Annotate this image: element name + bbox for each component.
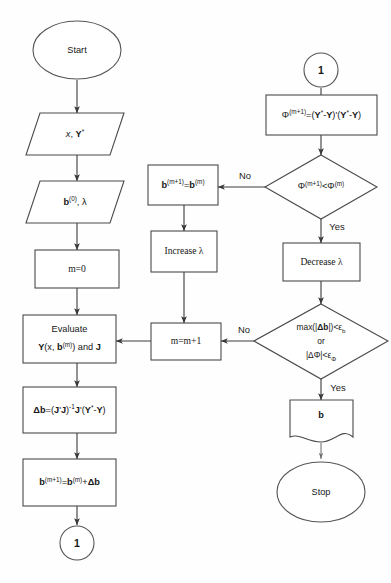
node-delta-b: Δb=(J'J)-1J'(Y*-Y) [23,387,116,433]
edge-label-phi-no: No [239,170,251,181]
node-phi-decision: Φ(m+1)<Φ(m) [265,155,377,219]
node-increase-lambda: Increase λ [151,231,217,272]
node-m-increment: m=m+1 [151,323,221,360]
node-start: Start [33,21,121,79]
node-connector-top-right-label: 1 [318,64,324,76]
edge-label-converge-yes: Yes [330,382,346,393]
flowchart-svg: Start x, Y* b(0), λ m=0 Evaluate Y(x, b(… [0,0,391,583]
node-connector-bottom-left: 1 [60,526,94,560]
node-increase-lambda-label: Increase λ [164,245,203,256]
edge-label-phi-yes: Yes [329,221,345,232]
node-phi-calc: Φ(m+1)=(Y*-Y)'(Y*-Y) [266,95,377,135]
node-b-revert: b(m+1)=b(m) [148,165,218,205]
node-m-increment-label: m=m+1 [171,335,202,346]
node-converge-decision-label-2: or [317,336,325,346]
node-converge-decision: max(|Δb|)<εb or |ΔΦ|<εΦ [254,304,388,379]
node-connector-bottom-left-label: 1 [74,537,80,549]
node-decrease-lambda-label: Decrease λ [300,256,343,267]
node-stop: Stop [277,462,365,522]
node-start-label: Start [67,45,87,55]
node-evaluate: Evaluate Y(x, b(m)) and J [23,315,116,363]
node-connector-top-right: 1 [304,53,338,87]
node-b-update: b(m+1)=b(m)+Δb [23,459,116,506]
edge-label-converge-no: No [238,324,250,335]
flowchart-canvas: Start x, Y* b(0), λ m=0 Evaluate Y(x, b(… [0,0,391,583]
node-decrease-lambda: Decrease λ [283,243,360,281]
node-output-b-label: b [318,410,324,420]
node-stop-label: Stop [312,487,331,497]
node-converge-decision-label-1: max(|Δb|)<εb [297,322,347,333]
node-m-init: m=0 [35,250,119,288]
node-m-init-label: m=0 [68,263,86,274]
node-input-b0: b(0), λ [26,181,124,223]
node-evaluate-label-1: Evaluate [52,324,88,334]
node-input-xy: x, Y* [26,113,124,155]
node-output-b: b [290,400,353,442]
